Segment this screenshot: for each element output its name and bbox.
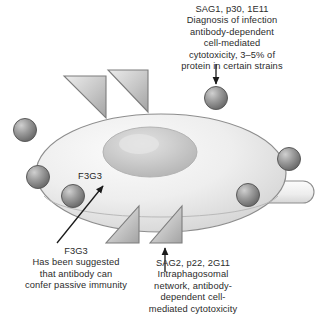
- surface-sphere: [237, 184, 260, 207]
- triangle-upper-left: [64, 76, 106, 118]
- surface-sphere: [62, 185, 85, 208]
- label-f3g3-inline: F3G3: [78, 171, 102, 181]
- surface-sphere: [27, 166, 50, 189]
- surface-sphere: [14, 119, 37, 142]
- cell-nucleus: [103, 127, 197, 177]
- label-sag1-p30-1e11: SAG1, p30, 1E11 Diagnosis of infection a…: [146, 4, 318, 72]
- triangle-upper-right: [108, 70, 148, 112]
- label-sag2-p22-2g11: SAG2, p22, 2G11 Intraphagosomal network,…: [118, 258, 268, 315]
- surface-sphere: [278, 148, 301, 171]
- figure-canvas: SAG1, p30, 1E11 Diagnosis of infection a…: [0, 0, 322, 331]
- surface-sphere: [205, 87, 228, 110]
